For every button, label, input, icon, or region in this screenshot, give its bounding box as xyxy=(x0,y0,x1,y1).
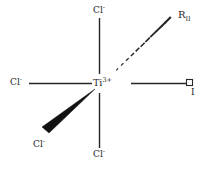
vacant-site-square-icon xyxy=(187,80,193,86)
ligand-label-cl-top: Cl- xyxy=(93,6,105,15)
center-atom-label: Ti3+ xyxy=(93,78,112,88)
ligand-label-cl-left: Cl- xyxy=(10,78,22,87)
bond-ti-r-hashed-wedge xyxy=(116,17,171,70)
ligand-symbol-cl-left: Cl xyxy=(10,77,20,87)
ligand-label-cl-wedge: Cl- xyxy=(33,140,45,149)
center-atom-charge: 3+ xyxy=(102,76,112,84)
ligand-charge-cl-bottom: - xyxy=(103,147,105,155)
ligand-label-r-two: RII xyxy=(178,10,191,20)
ligand-charge-cl-left: - xyxy=(20,75,22,83)
ligand-symbol-r: R xyxy=(178,9,186,20)
ligand-symbol-cl-bottom: Cl xyxy=(93,149,103,159)
ligand-symbol-cl-top: Cl xyxy=(93,5,103,15)
structure-diagram-canvas: Ti3+ Cl- Cl- Cl- Cl- RII I xyxy=(0,0,210,170)
ligand-subscript-r: II xyxy=(186,15,191,23)
ligand-label-cl-bottom: Cl- xyxy=(93,150,105,159)
vacant-site-label: I xyxy=(191,88,195,97)
bond-ti-cl-bold-wedge xyxy=(42,89,95,133)
ligand-symbol-cl-wedge: Cl xyxy=(33,139,43,149)
center-atom-symbol: Ti xyxy=(93,77,102,88)
ligand-charge-cl-top: - xyxy=(103,3,105,11)
ligand-charge-cl-wedge: - xyxy=(43,137,45,145)
